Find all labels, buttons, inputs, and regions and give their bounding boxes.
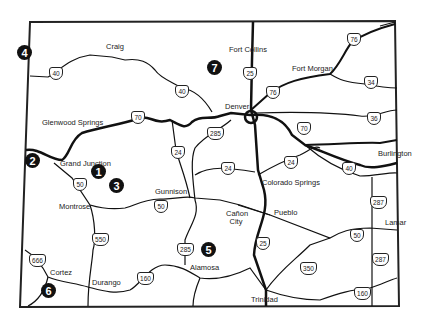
city-trinidad: Trinidad	[251, 296, 278, 304]
city-burlington: Burlington	[378, 150, 412, 158]
marker-1[interactable]: 1	[91, 164, 106, 179]
marker-4[interactable]: 4	[17, 45, 32, 60]
road-us160	[25, 250, 397, 300]
road-us350	[266, 238, 330, 290]
route-shield-550: 550	[92, 233, 109, 246]
marker-7[interactable]: 7	[207, 60, 222, 75]
city-craig: Craig	[106, 43, 124, 51]
city-gunnison: Gunnison	[155, 188, 187, 196]
city-fort-morgan: Fort Morgan	[292, 65, 333, 73]
city-glenwood-springs: Glenwood Springs	[42, 119, 103, 127]
road-us550	[88, 205, 95, 306]
route-shield-666: 666	[29, 254, 46, 267]
city-colorado-springs: Colorado Springs	[262, 179, 320, 187]
city-pueblo: Pueblo	[274, 209, 297, 217]
city-alamosa: Alamosa	[190, 264, 219, 272]
route-shield-287: 287	[370, 196, 387, 209]
road-us285-south	[193, 278, 200, 306]
route-shield-350: 350	[300, 262, 317, 275]
road-i25	[251, 22, 266, 306]
city-denver: Denver	[225, 103, 249, 111]
city-canon-city: Cañon City	[226, 210, 246, 225]
marker-6[interactable]: 6	[41, 283, 56, 298]
marker-2[interactable]: 2	[25, 153, 40, 168]
city-lamar: Lamar	[385, 219, 406, 227]
route-shield-287: 287	[372, 253, 389, 266]
route-shield-160: 160	[137, 272, 154, 285]
marker-3[interactable]: 3	[109, 178, 124, 193]
marker-5[interactable]: 5	[201, 242, 216, 257]
city-fort-collins: Fort Collins	[229, 46, 267, 54]
route-shield-160: 160	[354, 287, 371, 300]
city-cortez: Cortez	[50, 269, 72, 277]
route-shield-285: 285	[177, 243, 194, 256]
city-durango: Durango	[92, 279, 121, 287]
road-us40-north	[30, 55, 212, 112]
road-i70-east	[305, 140, 397, 145]
route-shield-285: 285	[207, 127, 224, 140]
city-montrose: Montrose	[59, 203, 90, 211]
